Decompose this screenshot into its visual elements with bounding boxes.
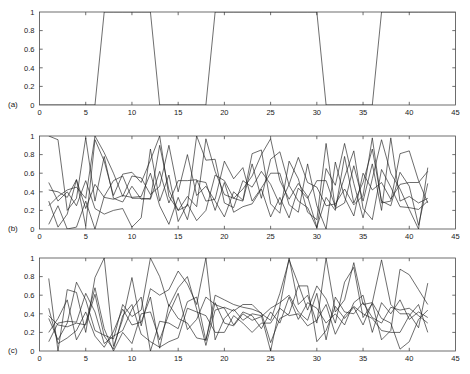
axis-box	[40, 12, 456, 105]
x-tick-label: 10	[128, 108, 136, 117]
x-tick-label: 20	[220, 232, 228, 241]
y-tick-label: 0.2	[24, 206, 34, 215]
y-tick-label: 0.4	[24, 64, 34, 73]
y-tick-label: 1	[30, 254, 34, 263]
y-tick-label: 0.4	[24, 188, 34, 197]
series-line-series-4	[49, 136, 428, 220]
y-tick-label: 0.6	[24, 45, 34, 54]
x-tick-label: 0	[37, 108, 41, 117]
series-line-binary-regime-signal	[40, 12, 456, 105]
x-tick-label: 40	[405, 354, 413, 363]
x-tick-label: 45	[451, 108, 459, 117]
x-tick-label: 10	[128, 354, 136, 363]
y-tick-label: 0.8	[24, 150, 34, 159]
panel-plot-b: 05101520253035404500.20.40.60.81(b)	[0, 124, 470, 249]
panel-tag-label: (c)	[8, 346, 18, 355]
x-tick-label: 35	[359, 108, 367, 117]
panel-tag-label: (b)	[8, 224, 18, 233]
x-tick-label: 40	[405, 108, 413, 117]
x-tick-label: 25	[266, 354, 274, 363]
x-tick-label: 25	[266, 108, 274, 117]
x-tick-label: 10	[128, 232, 136, 241]
series-group	[49, 258, 428, 351]
y-tick-label: 1	[30, 8, 34, 17]
x-tick-label: 15	[174, 354, 182, 363]
multi-panel-timeseries-figure: 05101520253035404500.20.40.60.81(a) 0510…	[0, 0, 470, 374]
x-tick-label: 30	[313, 354, 321, 363]
series-line-series-5	[49, 293, 428, 348]
y-tick-label: 0	[30, 225, 34, 234]
x-tick-label: 0	[37, 354, 41, 363]
y-tick-label: 0.2	[24, 328, 34, 337]
series-line-series-4	[49, 294, 428, 349]
x-tick-label: 30	[313, 108, 321, 117]
x-tick-label: 5	[84, 232, 88, 241]
series-group	[49, 136, 428, 229]
series-line-series-1	[49, 258, 428, 351]
panel-a: 05101520253035404500.20.40.60.81(a)	[0, 0, 470, 125]
panel-plot-c: 05101520253035404500.20.40.60.81(c)	[0, 246, 470, 374]
x-tick-label: 20	[220, 354, 228, 363]
panel-plot-a: 05101520253035404500.20.40.60.81(a)	[0, 0, 470, 125]
x-tick-label: 15	[174, 108, 182, 117]
y-tick-label: 0.2	[24, 82, 34, 91]
y-tick-label: 0.4	[24, 310, 34, 319]
y-tick-label: 0.6	[24, 291, 34, 300]
x-tick-label: 40	[405, 232, 413, 241]
series-group	[40, 12, 456, 105]
y-tick-label: 1	[30, 132, 34, 141]
x-tick-label: 30	[313, 232, 321, 241]
x-tick-label: 35	[359, 232, 367, 241]
x-tick-label: 5	[84, 354, 88, 363]
x-tick-label: 0	[37, 232, 41, 241]
x-tick-label: 25	[266, 232, 274, 241]
y-tick-label: 0.8	[24, 26, 34, 35]
x-tick-label: 15	[174, 232, 182, 241]
panel-b: 05101520253035404500.20.40.60.81(b)	[0, 124, 470, 249]
y-tick-label: 0	[30, 347, 34, 356]
x-tick-label: 35	[359, 354, 367, 363]
panel-c: 05101520253035404500.20.40.60.81(c)	[0, 246, 470, 374]
x-tick-label: 20	[220, 108, 228, 117]
panel-tag-label: (a)	[8, 100, 18, 109]
x-tick-label: 45	[451, 354, 459, 363]
y-tick-label: 0	[30, 101, 34, 110]
x-tick-label: 45	[451, 232, 459, 241]
x-tick-label: 5	[84, 108, 88, 117]
y-tick-label: 0.6	[24, 169, 34, 178]
y-tick-label: 0.8	[24, 272, 34, 281]
